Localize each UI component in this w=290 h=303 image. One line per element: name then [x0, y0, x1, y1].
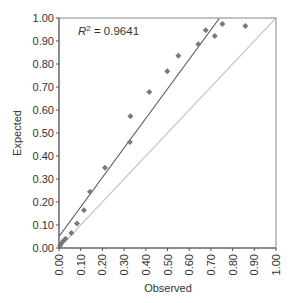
scatter-chart: 0.000.100.200.300.400.500.600.700.800.90…	[0, 0, 290, 303]
x-axis-title: Observed	[144, 282, 192, 294]
data-point	[81, 207, 87, 213]
y-tick-label: 0.50	[33, 127, 54, 139]
y-tick-label: 0.10	[33, 219, 54, 231]
y-tick-label: 0.80	[33, 58, 54, 70]
chart-canvas: 0.000.100.200.300.400.500.600.700.800.90…	[0, 0, 290, 303]
y-tick-label: 0.30	[33, 173, 54, 185]
x-tick-label: 0.60	[183, 254, 195, 275]
regression-line	[59, 18, 220, 237]
data-point	[164, 68, 170, 74]
data-point	[219, 21, 225, 27]
y-tick-label: 0.00	[33, 242, 54, 254]
y-tick-label: 0.60	[33, 104, 54, 116]
y-axis-title: Expected	[11, 110, 23, 156]
y-tick-label: 1.00	[33, 12, 54, 24]
x-tick-label: 0.90	[248, 254, 260, 275]
x-tick-label: 0.30	[118, 254, 130, 275]
data-point	[102, 165, 108, 171]
x-tick-label: 0.10	[75, 254, 87, 275]
data-point	[203, 27, 209, 33]
data-point	[74, 221, 80, 227]
identity-line	[59, 18, 276, 248]
x-tick-label: 0.00	[53, 254, 65, 275]
data-point	[146, 89, 152, 95]
x-tick-label: 0.70	[205, 254, 217, 275]
x-tick-label: 0.20	[96, 254, 108, 275]
data-point	[127, 113, 133, 119]
x-tick-label: 0.50	[162, 254, 174, 275]
y-tick-label: 0.90	[33, 35, 54, 47]
r-squared-annotation: R2 = 0.9641	[78, 24, 139, 38]
data-point	[127, 139, 133, 145]
y-tick-label: 0.70	[33, 81, 54, 93]
data-point	[87, 189, 93, 195]
data-point	[175, 53, 181, 59]
y-tick-label: 0.40	[33, 150, 54, 162]
y-tick-label: 0.20	[33, 196, 54, 208]
data-points	[57, 21, 248, 249]
x-tick-label: 1.00	[270, 254, 282, 275]
data-point	[212, 33, 218, 39]
reference-lines	[59, 18, 276, 248]
data-point	[195, 41, 201, 47]
x-tick-label: 0.40	[140, 254, 152, 275]
x-tick-label: 0.80	[227, 254, 239, 275]
data-point	[242, 23, 248, 29]
data-point	[68, 230, 74, 236]
